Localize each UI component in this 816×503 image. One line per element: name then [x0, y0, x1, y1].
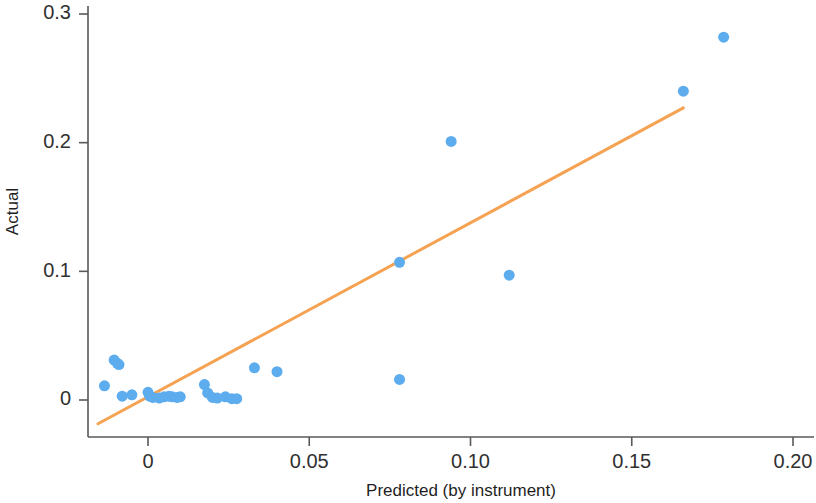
data-point [126, 389, 137, 400]
data-point [504, 270, 515, 281]
scatter-chart: 00.10.20.300.050.100.150.20Predicted (by… [0, 0, 816, 503]
data-point [99, 380, 110, 391]
data-point [113, 359, 124, 370]
data-point [272, 366, 283, 377]
plot-canvas: 00.10.20.300.050.100.150.20Predicted (by… [0, 0, 816, 503]
x-tick-label: 0.05 [290, 450, 329, 472]
data-points-group [99, 32, 729, 405]
y-tick-label: 0.2 [43, 130, 71, 152]
x-tick-label: 0.20 [774, 450, 813, 472]
x-tick-label: 0 [142, 450, 153, 472]
x-axis-ticks: 00.050.100.150.20 [142, 437, 812, 472]
data-point [718, 32, 729, 43]
y-axis-ticks: 00.10.20.3 [43, 1, 88, 409]
data-point [394, 257, 405, 268]
x-tick-label: 0.15 [612, 450, 651, 472]
y-tick-label: 0.1 [43, 259, 71, 281]
data-point [231, 393, 242, 404]
data-point [678, 86, 689, 97]
axes-group [88, 6, 814, 437]
data-point [249, 362, 260, 373]
data-point [394, 374, 405, 385]
y-tick-label: 0.3 [43, 1, 71, 23]
x-tick-label: 0.10 [451, 450, 490, 472]
y-axis-title: Actual [3, 188, 22, 235]
trend-line-group [98, 108, 683, 424]
data-point [446, 136, 457, 147]
data-point [117, 391, 128, 402]
trend-line [98, 108, 683, 424]
y-tick-label: 0 [60, 387, 71, 409]
x-axis-title: Predicted (by instrument) [366, 481, 556, 500]
data-point [175, 391, 186, 402]
